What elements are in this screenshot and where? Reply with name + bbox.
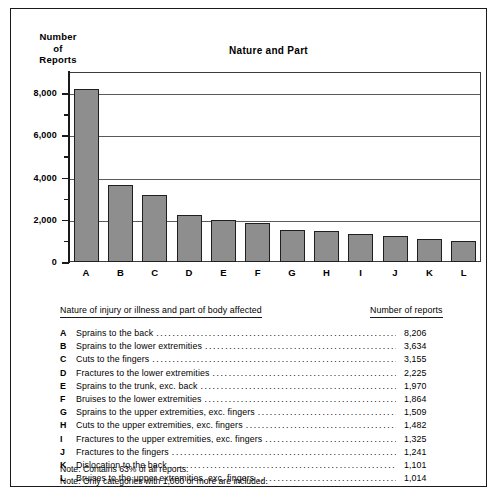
legend-row: JFractures to the fingers...............…: [60, 447, 478, 460]
dot-leader: ........................................…: [205, 341, 396, 351]
y-tick-mark: [62, 93, 69, 95]
dot-leader: ........................................…: [246, 420, 396, 430]
bar-G: [280, 230, 305, 262]
y-axis-spine: [68, 71, 70, 263]
legend-row-key: F: [60, 394, 73, 404]
legend-row-value: 2,225: [404, 368, 427, 378]
legend-row-description-text: Cuts to the upper extremities, exc. fing…: [76, 420, 246, 430]
x-tick-label-C: C: [138, 267, 172, 278]
y-tick-mark: [64, 156, 69, 158]
legend-row-key: E: [60, 381, 73, 391]
legend-header-count: Number of reports: [370, 305, 443, 318]
bar-B: [108, 185, 133, 262]
legend-header-row: Nature of injury or illness and part of …: [60, 305, 478, 320]
legend-row-value: 1,014: [404, 473, 427, 483]
notes-block: Note: Contains 63% of all reports. Note:…: [60, 464, 268, 487]
legend-row-description: Fractures to the upper extremities, exc.…: [76, 434, 396, 444]
legend-row-value: 1,241: [404, 447, 427, 457]
bar-A: [74, 89, 99, 262]
legend-row-value: 1,509: [404, 407, 427, 417]
legend-row-description-text: Cuts to the fingers: [76, 354, 152, 364]
x-tick-label-L: L: [447, 267, 481, 278]
legend-row: FBruises to the lower extremities.......…: [60, 394, 478, 407]
legend-row-description: Cuts to the upper extremities, exc. fing…: [76, 420, 396, 430]
legend-row: ESprains to the trunk, exc. back........…: [60, 381, 478, 394]
dot-leader: ........................................…: [265, 434, 396, 444]
note-line-1: Note: Contains 63% of all reports.: [60, 464, 268, 476]
y-tick-mark: [64, 114, 69, 116]
y-tick-label-6000: 6,000: [33, 130, 57, 140]
legend-row: HCuts to the upper extremities, exc. fin…: [60, 420, 478, 433]
x-tick-label-F: F: [241, 267, 275, 278]
x-tick-label-E: E: [206, 267, 240, 278]
legend-row-key: G: [60, 407, 73, 417]
legend-row: GSprains to the upper extremities, exc. …: [60, 407, 478, 420]
y-tick-mark: [64, 241, 69, 243]
dot-leader: ........................................…: [204, 394, 396, 404]
bar-J: [383, 236, 408, 262]
legend-row: IFractures to the upper extremities, exc…: [60, 434, 478, 447]
legend-row-description: Cuts to the fingers.....................…: [76, 354, 396, 364]
x-tick-label-A: A: [69, 267, 103, 278]
legend-row-description: Sprains to the upper extremities, exc. f…: [76, 407, 396, 417]
y-axis-title-line-1: Number: [25, 31, 91, 43]
legend-row-value: 3,634: [404, 341, 427, 351]
y-tick-label-4000: 4,000: [33, 173, 57, 183]
bar-F: [245, 223, 270, 262]
dot-leader: ........................................…: [258, 407, 396, 417]
dot-leader: ........................................…: [152, 354, 396, 364]
bar-C: [142, 195, 167, 262]
x-tick-label-I: I: [344, 267, 378, 278]
legend-row-description-text: Fractures to the fingers: [76, 447, 172, 457]
x-tick-label-K: K: [412, 267, 446, 278]
legend-row-value: 1,970: [404, 381, 427, 391]
legend-row-key: D: [60, 368, 73, 378]
y-tick-mark: [64, 199, 69, 201]
x-tick-label-G: G: [275, 267, 309, 278]
bar-D: [177, 215, 202, 262]
legend-row-description-text: Sprains to the back: [76, 328, 156, 338]
legend-header-nature: Nature of injury or illness and part of …: [60, 305, 262, 318]
y-tick-label-2000: 2,000: [33, 215, 57, 225]
legend-row: CCuts to the fingers....................…: [60, 354, 478, 367]
legend-row-key: J: [60, 447, 73, 457]
legend-row-key: H: [60, 420, 73, 430]
dot-leader: ........................................…: [212, 368, 396, 378]
legend-row-value: 1,482: [404, 420, 427, 430]
legend-row-value: 1,325: [404, 434, 427, 444]
legend-row: DFractures to the lower extremities.....…: [60, 368, 478, 381]
y-tick-mark: [62, 220, 69, 222]
y-tick-label-8000: 8,000: [33, 88, 57, 98]
legend-row-description: Bruises to the lower extremities........…: [76, 394, 396, 404]
legend-row-value: 3,155: [404, 354, 427, 364]
legend-row-description-text: Sprains to the upper extremities, exc. f…: [76, 407, 258, 417]
legend-row-key: C: [60, 354, 73, 364]
gridline-4000: [69, 179, 480, 180]
y-tick-mark: [62, 178, 69, 180]
legend-table: Nature of injury or illness and part of …: [60, 305, 478, 486]
x-tick-label-H: H: [309, 267, 343, 278]
x-tick-label-B: B: [103, 267, 137, 278]
x-tick-label-D: D: [172, 267, 206, 278]
bar-H: [314, 231, 339, 262]
legend-row-description: Sprains to the back.....................…: [76, 328, 396, 338]
legend-row-description: Sprains to the lower extremities........…: [76, 341, 396, 351]
legend-rows: ASprains to the back....................…: [60, 328, 478, 486]
bar-L: [451, 241, 476, 262]
legend-row: ASprains to the back....................…: [60, 328, 478, 341]
legend-row-description-text: Bruises to the lower extremities: [76, 394, 204, 404]
bar-E: [211, 220, 236, 262]
legend-row-description-text: Fractures to the lower extremities: [76, 368, 212, 378]
gridline-6000: [69, 136, 480, 137]
legend-row-key: A: [60, 328, 73, 338]
bar-I: [348, 234, 373, 262]
x-tick-label-J: J: [378, 267, 412, 278]
legend-row-value: 8,206: [404, 328, 427, 338]
y-tick-label-0: 0: [52, 257, 57, 267]
legend-row-key: I: [60, 434, 73, 444]
dot-leader: ........................................…: [257, 473, 396, 483]
legend-row-description: Sprains to the trunk, exc. back.........…: [76, 381, 396, 391]
dot-leader: ........................................…: [172, 447, 396, 457]
gridline-8000: [69, 94, 480, 95]
legend-row-key: B: [60, 341, 73, 351]
